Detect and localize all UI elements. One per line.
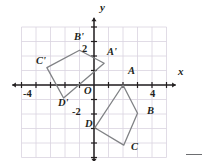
vertex-label-c: C <box>131 142 138 153</box>
vertex-label-d: D <box>85 119 93 130</box>
origin-label: O <box>84 86 92 97</box>
x-tick-label-neg4: -4 <box>23 89 32 100</box>
vertex-label-a: A <box>128 66 135 77</box>
vertex-label-d-prime: D' <box>58 98 69 109</box>
x-axis-label: x <box>178 66 184 77</box>
vertex-label-b-prime: B' <box>74 32 84 43</box>
y-axis-label: y <box>100 2 105 13</box>
coordinate-plane-figure <box>0 0 205 161</box>
figure-background <box>0 0 205 161</box>
vertex-label-c-prime: C' <box>36 56 46 67</box>
y-tick-label-2: 2 <box>82 44 87 55</box>
x-tick-label-4: 4 <box>150 89 155 100</box>
vertex-label-a-prime: A' <box>107 47 117 58</box>
vertex-label-b: B <box>147 106 154 117</box>
y-tick-label-neg2: -2 <box>72 107 81 118</box>
page-rule <box>186 154 202 155</box>
